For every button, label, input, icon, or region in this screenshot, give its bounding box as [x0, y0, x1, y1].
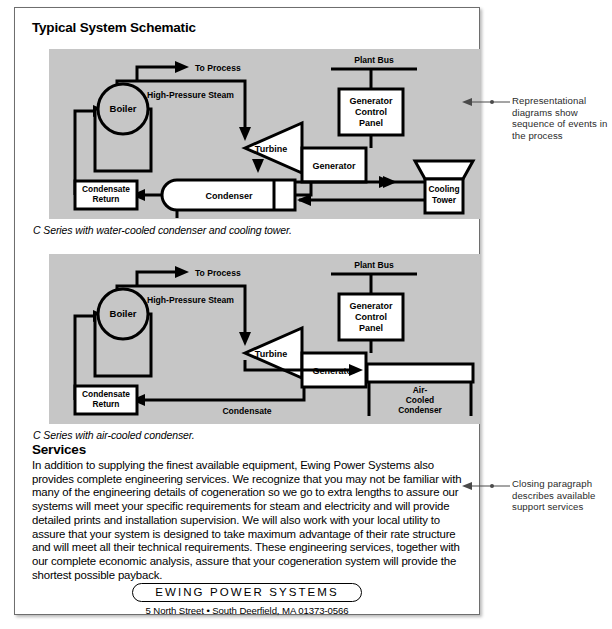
document-page: Typical System Schematic: [14, 7, 480, 615]
high-pressure-steam-label: High-Pressure Steam: [147, 90, 234, 100]
annotation-bottom: Closing paragraph describes available su…: [512, 478, 608, 513]
svg-text:Tower: Tower: [432, 195, 457, 205]
svg-text:Control: Control: [355, 107, 387, 117]
turbine-label: Turbine: [255, 144, 287, 154]
svg-text:Generator: Generator: [349, 301, 393, 311]
to-process-label: To Process: [195, 63, 241, 73]
svg-text:High-Pressure Steam: High-Pressure Steam: [147, 295, 234, 305]
svg-text:Return: Return: [93, 399, 120, 409]
diagram-water-cooled-condenser: Boiler Condensate Return To Process High…: [49, 49, 480, 219]
svg-text:Return: Return: [93, 194, 120, 204]
svg-text:Cooling: Cooling: [428, 184, 459, 194]
condenser-label: Condenser: [205, 191, 253, 201]
svg-text:Turbine: Turbine: [255, 349, 287, 359]
condensate-label: Condensate: [222, 406, 271, 416]
svg-text:Control: Control: [355, 312, 387, 322]
svg-text:Condensate: Condensate: [82, 184, 130, 194]
annotation-leader-top: [462, 97, 510, 107]
annotation-leader-bottom: [462, 481, 510, 491]
footer-address: 5 North Street • South Deerfield, MA 013…: [15, 605, 479, 616]
page-title: Typical System Schematic: [32, 20, 196, 35]
svg-text:Condensate: Condensate: [82, 389, 130, 399]
boiler-label: Boiler: [110, 103, 137, 114]
svg-text:Cooled: Cooled: [406, 395, 434, 405]
svg-text:Generator: Generator: [312, 161, 356, 171]
services-heading: Services: [32, 442, 86, 457]
svg-text:Panel: Panel: [359, 118, 383, 128]
company-logo: EWING POWER SYSTEMS: [132, 583, 362, 602]
svg-text:Panel: Panel: [359, 323, 383, 333]
footer: EWING POWER SYSTEMS 5 North Street • Sou…: [15, 582, 479, 616]
boiler-shape-2: [95, 289, 151, 376]
caption-diagram-1: C Series with water-cooled condenser and…: [33, 224, 292, 236]
svg-text:Generator: Generator: [349, 96, 393, 106]
svg-text:Plant Bus: Plant Bus: [354, 260, 394, 270]
diagram-air-cooled-condenser: Boiler Condensate Return Condensate To P…: [49, 254, 480, 424]
boiler-shape: [95, 84, 151, 171]
services-paragraph: In addition to supplying the finest avai…: [32, 459, 465, 582]
annotation-top: Representational diagrams show sequence …: [512, 95, 608, 141]
caption-diagram-2: C Series with air-cooled condenser.: [33, 429, 195, 441]
svg-text:To Process: To Process: [195, 268, 241, 278]
svg-text:Boiler: Boiler: [110, 308, 137, 319]
plant-bus-label: Plant Bus: [354, 55, 394, 65]
svg-text:Condenser: Condenser: [398, 405, 442, 415]
svg-text:Air-: Air-: [413, 385, 428, 395]
